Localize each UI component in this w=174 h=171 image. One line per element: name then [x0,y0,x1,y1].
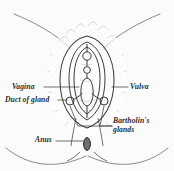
anus [84,138,91,151]
label-anus: Anus [35,136,52,145]
label-vagina: Vagina [12,83,35,92]
right-lower-buttock-line [88,148,168,164]
label-bartholin-glands: Bartholin's glands [113,117,169,134]
label-duct-of-gland: Duct of gland [5,96,49,105]
label-vulva: Vulva [130,83,149,92]
label-bartholin-line2: glands [113,125,134,134]
anatomical-diagram: Vagina Duct of gland Vulva Bartholin's g… [0,0,174,171]
left-lower-buttock-line [6,148,86,164]
